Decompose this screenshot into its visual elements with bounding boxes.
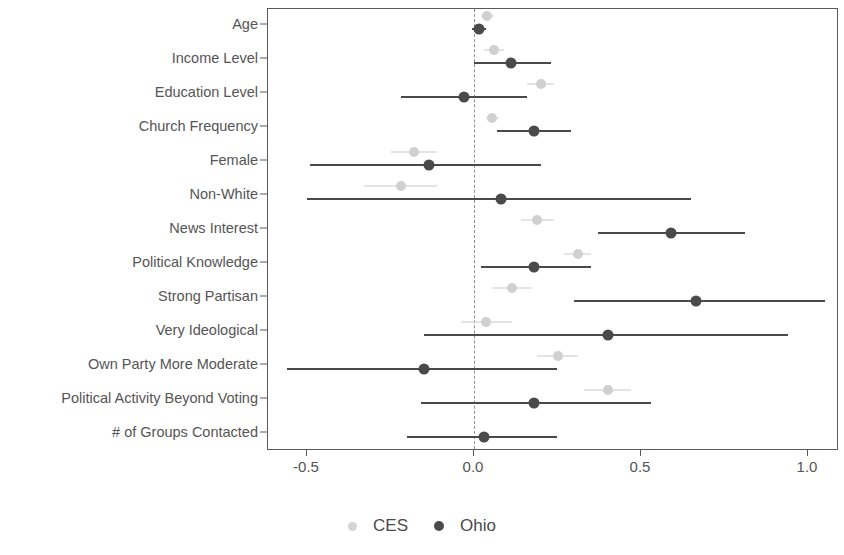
- y-axis-tick-mark: [260, 24, 267, 25]
- y-axis-tick-label: Political Activity Beyond Voting: [61, 390, 258, 406]
- x-axis-tick-mark: [306, 450, 307, 456]
- estimate-point-ohio: [474, 24, 485, 35]
- legend-label: CES: [373, 516, 408, 536]
- x-axis-tick-label: 0.0: [463, 458, 484, 475]
- x-axis-tick-label: 0.5: [630, 458, 651, 475]
- ces-legend-dot: [348, 522, 357, 531]
- x-axis-tick-label: 1.0: [797, 458, 818, 475]
- y-axis-tick-label: Very Ideological: [156, 322, 258, 338]
- estimate-point-ohio: [495, 194, 506, 205]
- x-axis-tick-mark: [640, 450, 641, 456]
- y-axis-tick-mark: [260, 296, 267, 297]
- y-axis-tick-label: # of Groups Contacted: [112, 424, 258, 440]
- estimate-point-ces: [482, 11, 492, 21]
- y-axis-tick-mark: [260, 262, 267, 263]
- zero-reference-line: [474, 9, 475, 449]
- y-axis-tick-mark: [260, 228, 267, 229]
- legend-item: CES: [348, 516, 408, 536]
- y-axis-tick-mark: [260, 126, 267, 127]
- estimate-point-ohio: [479, 432, 490, 443]
- x-axis-tick-mark: [473, 450, 474, 456]
- estimate-point-ces: [507, 283, 517, 293]
- estimate-point-ohio: [691, 296, 702, 307]
- y-axis-tick-mark: [260, 194, 267, 195]
- plot-area: [268, 9, 837, 449]
- estimate-point-ces: [553, 351, 563, 361]
- y-axis-tick-mark: [260, 432, 267, 433]
- y-axis-tick-label: Education Level: [155, 84, 258, 100]
- x-axis-tick-mark: [807, 450, 808, 456]
- y-axis-tick-label: News Interest: [169, 220, 258, 236]
- y-axis-tick-mark: [260, 330, 267, 331]
- chart-legend: CESOhio: [0, 516, 844, 536]
- ohio-legend-dot: [434, 521, 444, 531]
- estimate-point-ohio: [505, 58, 516, 69]
- y-axis-tick-mark: [260, 92, 267, 93]
- estimate-point-ces: [396, 181, 406, 191]
- estimate-point-ces: [487, 113, 497, 123]
- estimate-point-ohio: [458, 92, 469, 103]
- y-axis-tick-label: Political Knowledge: [132, 254, 258, 270]
- estimate-point-ohio: [529, 398, 540, 409]
- y-axis-tick-label: Own Party More Moderate: [88, 356, 258, 372]
- legend-item: Ohio: [434, 516, 496, 536]
- y-axis-tick-label: Non-White: [190, 186, 259, 202]
- x-axis-tick-label: -0.5: [293, 458, 319, 475]
- y-axis-tick-mark: [260, 160, 267, 161]
- y-axis-tick-label: Female: [210, 152, 258, 168]
- estimate-point-ces: [573, 249, 583, 259]
- y-axis-tick-mark: [260, 398, 267, 399]
- estimate-point-ohio: [529, 262, 540, 273]
- legend-label: Ohio: [460, 516, 496, 536]
- y-axis-tick-label: Strong Partisan: [158, 288, 258, 304]
- y-axis-tick-mark: [260, 58, 267, 59]
- y-axis-tick-label: Age: [232, 16, 258, 32]
- estimate-point-ces: [603, 385, 613, 395]
- estimate-point-ces: [409, 147, 419, 157]
- estimate-point-ohio: [529, 126, 540, 137]
- estimate-point-ces: [489, 45, 499, 55]
- y-axis-tick-mark: [260, 364, 267, 365]
- estimate-point-ces: [532, 215, 542, 225]
- y-axis-tick-label: Income Level: [172, 50, 258, 66]
- y-axis-label-group: AgeIncome LevelEducation LevelChurch Fre…: [0, 0, 258, 555]
- coefficient-plot-figure: AgeIncome LevelEducation LevelChurch Fre…: [0, 0, 844, 555]
- estimate-point-ohio: [423, 160, 434, 171]
- estimate-point-ces: [536, 79, 546, 89]
- estimate-point-ohio: [602, 330, 613, 341]
- estimate-point-ohio: [418, 364, 429, 375]
- estimate-point-ohio: [666, 228, 677, 239]
- estimate-point-ces: [481, 317, 491, 327]
- plot-panel: [267, 8, 838, 450]
- y-axis-tick-label: Church Frequency: [139, 118, 258, 134]
